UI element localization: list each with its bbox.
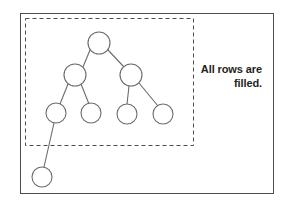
tree-node-level2-right [120, 64, 142, 86]
caption-text: All rows are filled. [176, 62, 262, 90]
tree-diagram-svg [0, 0, 284, 205]
tree-node-level3-1 [46, 103, 66, 123]
caption-line-1: All rows are [176, 62, 262, 76]
tree-node-level3-3 [117, 104, 137, 124]
tree-node-level4-1 [32, 167, 52, 187]
figure-container: All rows are filled. [0, 0, 284, 205]
tree-node-level2-left [64, 64, 86, 86]
tree-node-root [88, 32, 110, 54]
caption-line-2: filled. [176, 76, 262, 90]
tree-node-level3-4 [153, 104, 173, 124]
tree-node-level3-2 [81, 103, 101, 123]
